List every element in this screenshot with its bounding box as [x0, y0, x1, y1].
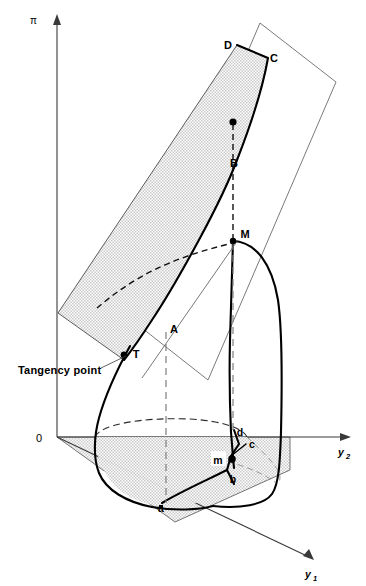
- point-label-c: c: [249, 438, 255, 450]
- dot-m: [228, 455, 236, 463]
- axis-label-origin: 0: [36, 432, 42, 444]
- axis-label-pi: π: [30, 15, 37, 26]
- point-label-M: M: [240, 228, 249, 240]
- figure-root: π 0 y 2 y 1 D C B M A T d c m b a Tangen…: [0, 0, 366, 586]
- axis-label-y2: y: [337, 446, 345, 458]
- point-label-b: b: [230, 473, 236, 485]
- axis-label-y2-sub: 2: [345, 452, 351, 461]
- point-label-B: B: [230, 157, 238, 169]
- point-label-m: m: [213, 454, 222, 466]
- dot-M: [230, 238, 236, 244]
- point-label-D: D: [224, 39, 232, 51]
- tangency-point-label: Tangency point: [18, 364, 101, 376]
- axis-label-y1-sub: 1: [313, 574, 317, 583]
- point-label-d: d: [237, 426, 243, 438]
- point-label-T: T: [133, 348, 140, 360]
- point-label-C: C: [270, 52, 278, 64]
- point-label-A: A: [170, 323, 178, 335]
- axis-label-y1: y: [304, 568, 312, 580]
- diagram-canvas: π 0 y 2 y 1 D C B M A T d c m b a Tangen…: [0, 0, 366, 586]
- dot-interior-optimum: [229, 118, 236, 125]
- point-label-a: a: [158, 502, 164, 514]
